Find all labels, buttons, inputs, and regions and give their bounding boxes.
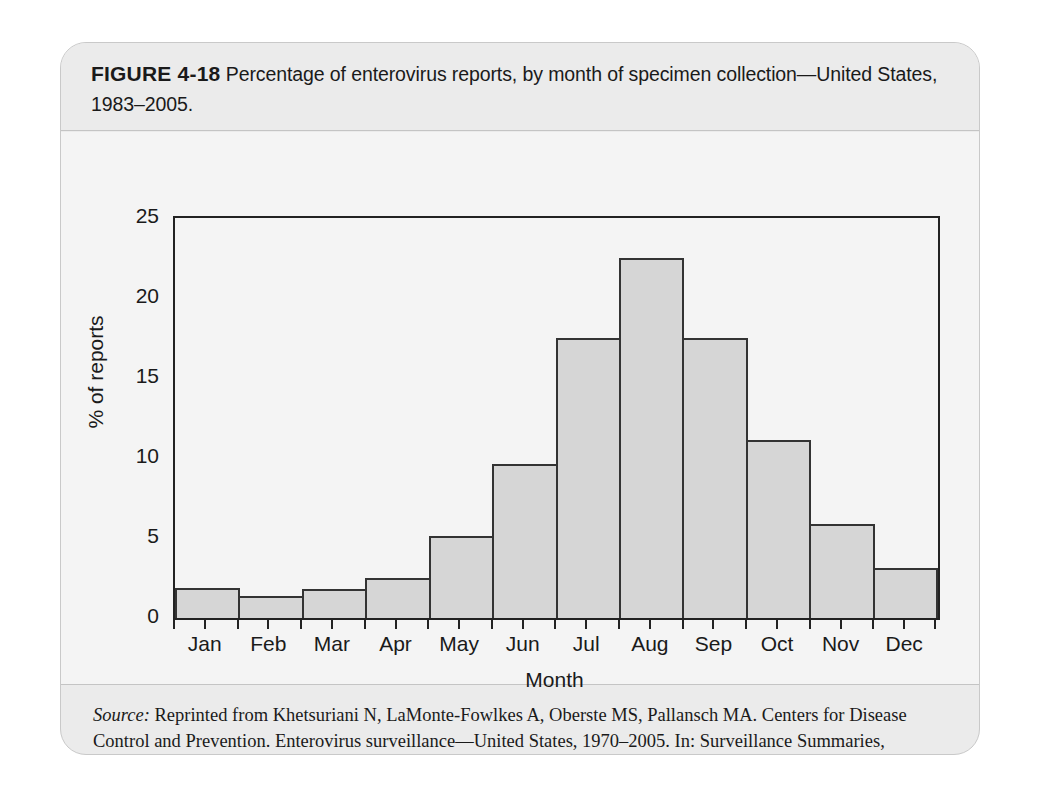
- x-axis-tick-mark: [395, 618, 397, 629]
- bar-jan: [175, 588, 240, 618]
- x-axis-tick-cell: [745, 618, 809, 629]
- x-axis-tick-label: Jul: [554, 632, 618, 656]
- x-axis-bin-edge: [237, 618, 239, 629]
- chart-panel: % of reports 0510152025 JanFebMarAprMayJ…: [61, 132, 979, 685]
- bar-may: [429, 536, 494, 618]
- figure-caption: FIGURE 4-18 Percentage of enterovirus re…: [91, 59, 949, 119]
- bar-apr: [365, 578, 430, 618]
- x-axis-tick-cell: [554, 618, 618, 629]
- source-label: Source:: [93, 705, 150, 725]
- y-axis-title: % of reports: [84, 262, 108, 482]
- x-axis-bin-edge: [300, 618, 302, 629]
- x-axis-tick-label: Mar: [300, 632, 364, 656]
- bar-nov: [809, 524, 874, 618]
- x-axis-bin-edge: [427, 618, 429, 629]
- source-note: Source: Reprinted from Khetsuriani N, La…: [61, 685, 979, 755]
- y-axis-tick-label: 15: [111, 365, 159, 386]
- x-axis-tick-cell: [618, 618, 682, 629]
- x-axis-tick-label: May: [427, 632, 491, 656]
- y-axis-tick-label: 10: [111, 445, 159, 466]
- y-axis-tick-label: 0: [111, 605, 159, 626]
- x-axis-tick-cell: [427, 618, 491, 629]
- x-axis-tick-mark: [522, 618, 524, 629]
- x-axis-tick-cell: [682, 618, 746, 629]
- plot-frame: [173, 216, 940, 620]
- figure-card: FIGURE 4-18 Percentage of enterovirus re…: [60, 42, 980, 755]
- y-axis-tick-label: 5: [111, 525, 159, 546]
- x-axis-tick-label: Oct: [745, 632, 809, 656]
- x-axis-bin-edge: [554, 618, 556, 629]
- x-axis-tick-labels: JanFebMarAprMayJunJulAugSepOctNovDec: [173, 632, 936, 656]
- x-axis-tick-cell: [173, 618, 237, 629]
- x-axis-bin-edge: [934, 618, 936, 629]
- x-axis-bin-edge: [618, 618, 620, 629]
- bar-jul: [556, 338, 621, 618]
- x-axis-tick-label: Apr: [364, 632, 428, 656]
- source-text-part1: Reprinted from Khetsuriani N, LaMonte-Fo…: [93, 705, 907, 755]
- bar-oct: [746, 440, 811, 618]
- x-axis-bin-edge: [682, 618, 684, 629]
- bar-aug: [619, 258, 684, 618]
- x-axis-tick-mark: [776, 618, 778, 629]
- x-axis-tick-mark: [840, 618, 842, 629]
- bar-dec: [873, 568, 938, 618]
- x-axis-tick-mark: [585, 618, 587, 629]
- x-axis-tick-cell: [300, 618, 364, 629]
- x-axis-bin-edge: [745, 618, 747, 629]
- x-axis-bin-edge: [872, 618, 874, 629]
- x-axis-tick-cell: [237, 618, 301, 629]
- x-axis-tick-cell: [491, 618, 555, 629]
- bar-sep: [682, 338, 747, 618]
- x-axis-tick-mark: [331, 618, 333, 629]
- x-axis-bin-edge: [173, 618, 175, 629]
- x-axis-bin-edge: [809, 618, 811, 629]
- x-axis-tick-mark: [267, 618, 269, 629]
- plot-area: % of reports 0510152025 JanFebMarAprMayJ…: [61, 132, 980, 684]
- y-axis-tick-label: 25: [111, 205, 159, 226]
- x-axis-tick-mark: [649, 618, 651, 629]
- x-axis-tick-label: Sep: [682, 632, 746, 656]
- x-axis-tick-label: Nov: [809, 632, 873, 656]
- x-axis-bin-edge: [364, 618, 366, 629]
- x-axis-tick-label: Feb: [237, 632, 301, 656]
- x-axis-tick-cell: [809, 618, 873, 629]
- x-axis-bin-edge: [491, 618, 493, 629]
- x-axis-tick-mark: [712, 618, 714, 629]
- x-axis-tick-mark: [204, 618, 206, 629]
- x-axis-tick-mark: [458, 618, 460, 629]
- figure-label: FIGURE 4-18: [91, 62, 220, 85]
- bar-mar: [302, 589, 367, 618]
- figure-page: FIGURE 4-18 Percentage of enterovirus re…: [0, 0, 1038, 802]
- bar-feb: [238, 596, 303, 618]
- x-axis-tick-mark: [903, 618, 905, 629]
- x-axis-tick-marks: [173, 618, 936, 629]
- figure-title-band: FIGURE 4-18 Percentage of enterovirus re…: [61, 43, 979, 131]
- x-axis-tick-cell: [364, 618, 428, 629]
- x-axis-tick-label: Aug: [618, 632, 682, 656]
- x-axis-tick-cell: [872, 618, 936, 629]
- x-axis-tick-label: Dec: [872, 632, 936, 656]
- x-axis-tick-label: Jun: [491, 632, 555, 656]
- x-axis-tick-label: Jan: [173, 632, 237, 656]
- bar-jun: [492, 464, 557, 618]
- bar-series: [175, 218, 938, 618]
- y-axis-tick-label: 20: [111, 285, 159, 306]
